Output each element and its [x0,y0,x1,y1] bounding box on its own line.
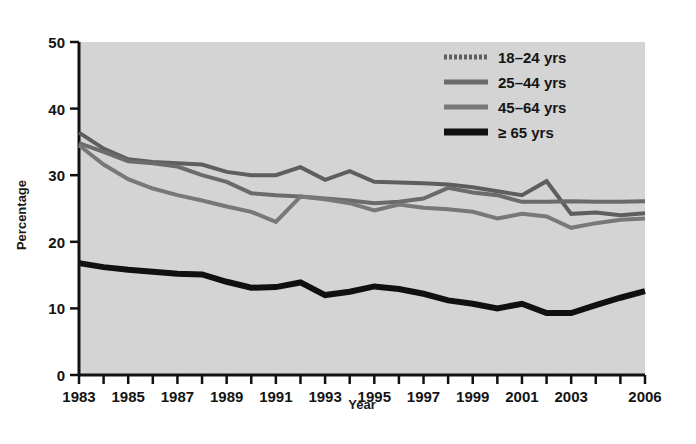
x-axis-title: Year [348,397,375,412]
x-tick-label: 1985 [112,388,145,405]
y-tick-label: 30 [48,167,65,184]
legend-label-2: 45–64 yrs [498,99,566,116]
x-tick-label: 1991 [259,388,292,405]
x-tick-label: 2003 [554,388,587,405]
x-tick-label: 1993 [308,388,341,405]
legend-label-0: 18–24 yrs [498,49,566,66]
y-tick-label: 20 [48,234,65,251]
y-tick-label: 40 [48,101,65,118]
legend-label-1: 25–44 yrs [498,74,566,91]
y-axis-title: Percentage [14,180,29,250]
chart-figure: 01020304050 1983198519871989199119931995… [0,0,696,444]
x-tick-label: 2001 [505,388,538,405]
y-tick-label: 0 [57,367,65,384]
x-tick-label: 1999 [456,388,489,405]
y-tick-label: 50 [48,34,65,51]
y-axis-tick-labels: 01020304050 [48,34,65,384]
x-tick-label: 1987 [161,388,194,405]
x-tick-label: 1983 [62,388,95,405]
legend-label-3: ≥ 65 yrs [498,124,554,141]
x-tick-label: 1997 [407,388,440,405]
x-tick-label: 1989 [210,388,243,405]
line-chart: 01020304050 1983198519871989199119931995… [0,0,696,444]
y-tick-label: 10 [48,300,65,317]
x-tick-label: 2006 [628,388,661,405]
